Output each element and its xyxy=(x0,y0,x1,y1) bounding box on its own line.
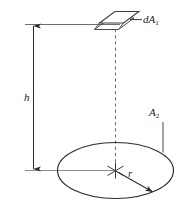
label-h: h xyxy=(24,92,30,103)
label-r: r xyxy=(128,168,132,179)
differential-area-patch xyxy=(95,12,140,30)
label-h-base: h xyxy=(24,91,30,103)
label-da1-base: dA xyxy=(143,13,155,25)
figure-canvas xyxy=(0,0,187,206)
label-a2-sub: 2 xyxy=(156,112,160,120)
label-a2: A2 xyxy=(149,107,159,120)
radius-arrow xyxy=(118,172,153,192)
label-da1: dA1 xyxy=(143,14,159,27)
radiation-view-factor-figure: dA1 A2 h r xyxy=(0,0,187,206)
label-da1-sub: 1 xyxy=(155,19,159,27)
label-r-base: r xyxy=(128,167,132,179)
label-a2-base: A xyxy=(149,106,156,118)
